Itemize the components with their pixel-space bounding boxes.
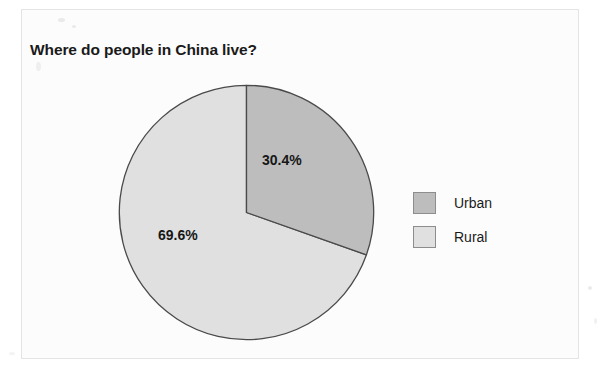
legend-label-rural: Rural (454, 229, 487, 245)
legend-item-rural[interactable]: Rural (413, 220, 492, 254)
scan-artifact (9, 352, 15, 355)
scanned-page: Where do people in China live? 30.4% 69.… (0, 0, 604, 369)
scan-artifact (36, 62, 41, 71)
chart-title: Where do people in China live? (30, 41, 257, 59)
legend: Urban Rural (413, 186, 492, 254)
pie-label-rural: 69.6% (158, 227, 198, 243)
pie-chart (118, 84, 375, 341)
pie-label-urban: 30.4% (262, 152, 302, 168)
scan-artifact (72, 25, 76, 28)
legend-item-urban[interactable]: Urban (413, 186, 492, 220)
legend-swatch-urban (413, 192, 436, 214)
scan-artifact (58, 18, 65, 22)
scan-artifact (594, 318, 597, 324)
legend-label-urban: Urban (454, 195, 492, 211)
scan-artifact (588, 286, 592, 290)
pie-chart-svg (118, 84, 375, 341)
legend-swatch-rural (413, 226, 436, 248)
